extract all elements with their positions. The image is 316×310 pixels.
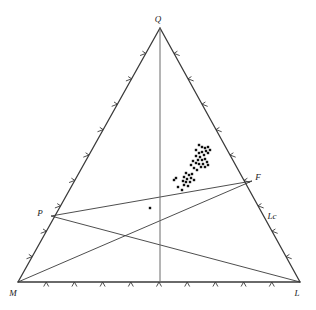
data-point [186,178,188,180]
data-point [185,181,187,183]
data-point [199,156,201,158]
data-point [198,152,200,154]
vertex-label-M: M [8,288,17,298]
data-point [189,181,191,183]
data-point [198,163,200,165]
edge-label-Lc: Lc [267,211,277,221]
data-point [192,160,194,162]
data-point [195,149,197,151]
data-point [203,154,205,156]
data-point [207,146,209,148]
vertex-label-Q: Q [155,14,162,24]
data-point [193,179,195,181]
data-point [200,166,202,168]
data-point [181,189,183,191]
data-point [195,162,197,164]
isolated-data-points [149,207,151,209]
isolated-data-point [149,207,151,209]
data-point [197,159,199,161]
data-point [177,186,179,188]
data-point [209,149,211,151]
ternary-diagram-canvas: QMLPFLc [0,0,316,310]
data-point [202,163,204,165]
data-point [182,180,184,182]
data-point [198,144,200,146]
plot-background [0,0,316,310]
data-point [187,185,189,187]
data-point [204,166,206,168]
data-point [201,151,203,153]
data-point [183,184,185,186]
ternary-diagram-figure: QMLPFLc [0,0,316,310]
edge-label-F: F [254,172,261,182]
data-point [201,159,203,161]
data-point [190,177,192,179]
edge-label-P: P [36,208,43,218]
data-point [196,169,198,171]
data-point [188,174,190,176]
data-point [173,179,175,181]
vertex-label-L: L [293,288,299,298]
data-point [204,158,206,160]
data-point [207,152,209,154]
data-point [191,173,193,175]
data-point [190,164,192,166]
data-point [204,147,206,149]
data-point [201,146,203,148]
data-point [207,164,209,166]
data-point [206,161,208,163]
data-point [195,155,197,157]
data-point [193,167,195,169]
data-point [185,172,187,174]
data-point [183,176,185,178]
